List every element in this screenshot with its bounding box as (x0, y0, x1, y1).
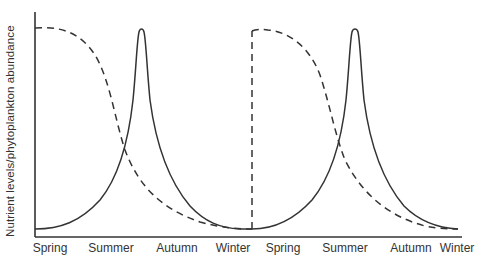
phytoplankton-curve-cycle-2 (252, 29, 458, 229)
x-tick-autumn-1: Autumn (156, 241, 197, 255)
x-tick-spring-2: Spring (266, 241, 301, 255)
nutrient-curve-cycle-1 (35, 28, 252, 229)
plot-area (0, 0, 485, 260)
y-axis-label: Nutrient levels/phytoplankton abundance (4, 25, 16, 237)
nutrient-curve-cycle-2 (252, 29, 458, 229)
x-tick-winter-2: Winter (440, 241, 475, 255)
x-tick-spring-1: Spring (33, 241, 68, 255)
x-tick-winter-1: Winter (216, 241, 251, 255)
x-tick-autumn-2: Autumn (390, 241, 431, 255)
x-tick-summer-2: Summer (322, 241, 367, 255)
phytoplankton-curve-cycle-1 (35, 29, 252, 229)
x-tick-summer-1: Summer (88, 241, 133, 255)
